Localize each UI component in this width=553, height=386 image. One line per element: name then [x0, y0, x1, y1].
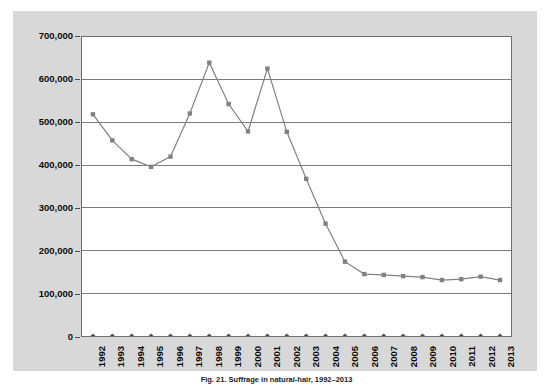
data-point: [110, 138, 114, 142]
data-point: [168, 154, 172, 158]
y-axis-tick-label: 500,000: [17, 117, 73, 127]
data-point: [401, 333, 406, 336]
data-point: [343, 259, 347, 263]
data-point: [420, 275, 424, 279]
x-axis-tick-label: 2006: [369, 346, 380, 367]
data-point: [245, 333, 250, 336]
data-point: [130, 157, 134, 161]
data-point: [149, 165, 153, 169]
data-point: [440, 278, 444, 282]
x-axis-tick-label: 1995: [154, 346, 165, 367]
y-axis-tick-mark: [75, 337, 80, 338]
data-point: [498, 278, 502, 282]
data-point: [478, 333, 483, 336]
data-point: [129, 333, 134, 336]
x-axis-tick-label: 2008: [408, 346, 419, 367]
data-point: [284, 333, 289, 336]
data-point: [362, 272, 366, 276]
x-axis-tick-label: 2007: [388, 346, 399, 367]
series-line-1: [93, 63, 500, 280]
data-point: [304, 333, 309, 336]
y-axis-tick-label: 300,000: [17, 203, 73, 213]
data-point: [381, 333, 386, 336]
data-point: [187, 333, 192, 336]
data-point: [342, 333, 347, 336]
data-point: [420, 333, 425, 336]
data-point: [362, 333, 367, 336]
data-point: [439, 333, 444, 336]
data-point: [149, 333, 154, 336]
data-point: [226, 102, 230, 106]
x-axis-tick-label: 1999: [232, 346, 243, 367]
chart-figure: 700,000600,000500,000400,000300,000200,0…: [0, 0, 553, 386]
y-axis-tick-label: 0: [17, 332, 73, 342]
y-axis-tick-label: 600,000: [17, 74, 73, 84]
figure-caption: Fig. 21. Suffrage in natural-hair, 1992–…: [0, 375, 553, 386]
x-axis-tick-label: 2009: [427, 346, 438, 367]
x-axis-tick-label: 2005: [349, 346, 360, 367]
x-axis-tick-label: 1998: [213, 346, 224, 367]
y-axis-tick-mark: [75, 208, 80, 209]
data-point: [91, 112, 95, 116]
x-axis-tick-label: 2012: [486, 346, 497, 367]
data-point: [246, 129, 250, 133]
x-axis-tick-label: 2010: [447, 346, 458, 367]
x-axis-tick-label: 1994: [135, 346, 146, 367]
y-axis-tick-mark: [75, 122, 80, 123]
plot-svg: [82, 37, 511, 336]
data-point: [497, 333, 502, 336]
data-point: [207, 333, 212, 336]
data-point: [478, 274, 482, 278]
x-axis-tick-label: 2001: [271, 346, 282, 367]
x-axis-tick-label: 2003: [310, 346, 321, 367]
data-point: [323, 221, 327, 225]
y-axis-tick-mark: [75, 36, 80, 37]
plot-area: [81, 36, 512, 337]
data-point: [401, 274, 405, 278]
data-point: [226, 333, 231, 336]
data-point: [265, 66, 269, 70]
data-point: [459, 277, 463, 281]
y-axis-tick-label: 700,000: [17, 31, 73, 41]
y-axis-tick-mark: [75, 251, 80, 252]
x-axis-tick-label: 2011: [466, 346, 477, 367]
y-axis-tick-mark: [75, 165, 80, 166]
y-axis-tick-mark: [75, 79, 80, 80]
x-axis-tick-label: 2013: [505, 346, 516, 367]
data-point: [207, 60, 211, 64]
y-axis: 700,000600,000500,000400,000300,000200,0…: [13, 11, 73, 371]
y-axis-tick-label: 400,000: [17, 160, 73, 170]
x-axis-tick-label: 1992: [96, 346, 107, 367]
y-axis-tick-label: 200,000: [17, 246, 73, 256]
x-axis-tick-label: 1993: [115, 346, 126, 367]
data-point: [188, 111, 192, 115]
chart-panel: 700,000600,000500,000400,000300,000200,0…: [13, 11, 537, 371]
x-axis-tick-label: 1997: [193, 346, 204, 367]
x-axis-tick-label: 1996: [174, 346, 185, 367]
data-point: [459, 333, 464, 336]
data-point: [285, 130, 289, 134]
y-axis-tick-mark: [75, 294, 80, 295]
data-point: [323, 333, 328, 336]
data-point: [168, 333, 173, 336]
x-axis-tick-label: 2000: [252, 346, 263, 367]
y-axis-tick-label: 100,000: [17, 289, 73, 299]
data-point: [90, 333, 95, 336]
data-point: [110, 333, 115, 336]
data-point: [265, 333, 270, 336]
x-axis-tick-label: 2002: [291, 346, 302, 367]
data-point: [382, 273, 386, 277]
data-point: [304, 177, 308, 181]
x-axis-tick-label: 2004: [330, 346, 341, 367]
